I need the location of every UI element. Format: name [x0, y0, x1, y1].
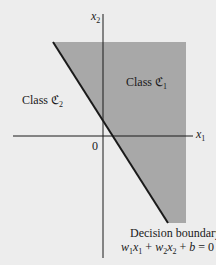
x2-axis-label: x2 — [91, 10, 100, 22]
decision-boundary-title: Decision boundary — [130, 227, 216, 239]
class-1-label: Class ℭ1 — [126, 76, 167, 88]
x1-axis-label: x1 — [196, 128, 205, 140]
decision-boundary-equation: w1x1 + w2x2 + b = 0 — [121, 241, 214, 253]
class-1-shaded-region — [53, 42, 186, 223]
class-2-label: Class ℭ2 — [22, 94, 63, 106]
origin-label: 0 — [92, 140, 98, 152]
